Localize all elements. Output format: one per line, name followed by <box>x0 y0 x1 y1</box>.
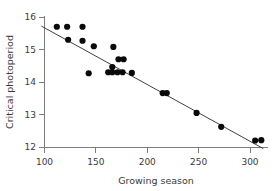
x-tick-label: 300 <box>241 157 258 167</box>
data-point <box>54 24 60 30</box>
x-tick-label: 150 <box>87 157 104 167</box>
data-point <box>193 110 199 116</box>
y-tick-label: 13 <box>25 110 36 120</box>
data-point <box>79 24 85 30</box>
x-tick-label: 200 <box>139 157 156 167</box>
x-tick-label: 250 <box>190 157 207 167</box>
scatter-plot-figure: 1213141516 100150200250300 Growing seaso… <box>0 0 276 191</box>
data-points-group <box>54 24 265 144</box>
regression-line <box>41 26 263 149</box>
x-axis-label: Growing season <box>118 175 194 186</box>
data-point <box>164 90 170 96</box>
data-point <box>79 38 85 44</box>
axes-group <box>45 16 269 148</box>
data-point <box>119 69 125 75</box>
data-point <box>252 137 258 143</box>
regression-line-group <box>41 26 263 149</box>
data-point <box>121 56 127 62</box>
data-point <box>65 37 71 43</box>
data-point <box>258 137 264 143</box>
y-tick-label: 12 <box>25 142 36 152</box>
x-axis-ticks: 100150200250300 <box>36 148 259 168</box>
plot-canvas: 1213141516 100150200250300 Growing seaso… <box>0 0 276 191</box>
y-tick-label: 16 <box>25 12 37 22</box>
y-tick-label: 14 <box>25 77 37 87</box>
data-point <box>110 44 116 50</box>
data-point <box>64 24 70 30</box>
data-point <box>218 124 224 130</box>
data-point <box>91 43 97 49</box>
y-axis-label: Critical photoperiod <box>4 35 15 129</box>
data-point <box>129 70 135 76</box>
data-point <box>86 70 92 76</box>
x-tick-label: 100 <box>36 157 53 167</box>
y-axis-ticks: 1213141516 <box>25 12 45 152</box>
y-tick-label: 15 <box>25 45 36 55</box>
